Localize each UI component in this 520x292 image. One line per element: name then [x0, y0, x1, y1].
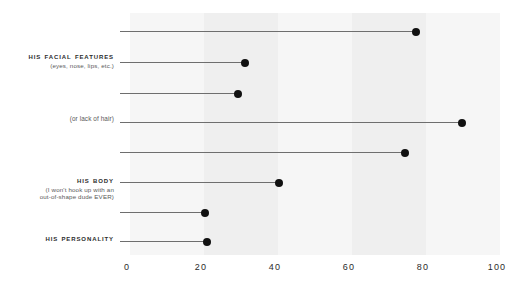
row-label: His Facial Features(eyes, nose, lips, et… [0, 51, 114, 69]
lollipop-dot[interactable] [203, 238, 211, 246]
row-title: His Personality [0, 233, 114, 244]
x-axis-tick-label: 0 [107, 262, 147, 272]
row-inline-note: (or lack of hair) [70, 115, 114, 122]
x-axis-tick-label: 80 [403, 262, 443, 272]
row-subtitle: (eyes, nose, lips, etc.) [0, 62, 114, 69]
x-axis-tick-label: 40 [255, 262, 295, 272]
x-axis-tick-label: 100 [477, 262, 517, 272]
x-axis: 020406080100 [0, 262, 520, 282]
row-label: (or lack of hair) [0, 113, 114, 124]
x-axis-tick-label: 60 [329, 262, 369, 272]
lollipop-connector-line [120, 182, 279, 183]
lollipop-connector-line [120, 212, 205, 213]
x-axis-tick-label: 20 [181, 262, 221, 272]
lollipop-dot[interactable] [401, 149, 409, 157]
lollipop-dot[interactable] [234, 90, 242, 98]
lollipop-chart: His Facial Features(eyes, nose, lips, et… [0, 0, 520, 292]
lollipop-connector-line [120, 93, 238, 94]
lollipop-connector-line [120, 241, 207, 242]
lollipop-dot[interactable] [412, 28, 420, 36]
row-subtitle-line2: out-of-shape dude EVER) [0, 193, 114, 200]
row-title: His Facial Features [0, 51, 114, 62]
lollipop-dot[interactable] [275, 179, 283, 187]
lollipop-connector-line [120, 62, 245, 63]
row-title: His Body [0, 175, 114, 186]
lollipop-dot[interactable] [458, 119, 466, 127]
lollipop-dot[interactable] [201, 209, 209, 217]
row-label: His Personality [0, 233, 114, 244]
row-title: (or lack of hair) [0, 113, 114, 124]
chart-rows: His Facial Features(eyes, nose, lips, et… [0, 0, 520, 292]
lollipop-connector-line [120, 152, 405, 153]
lollipop-connector-line [120, 31, 416, 32]
row-label: His Body(I won't hook up with anout-of-s… [0, 175, 114, 201]
row-subtitle: (I won't hook up with an [0, 186, 114, 193]
lollipop-connector-line [120, 122, 462, 123]
lollipop-dot[interactable] [241, 59, 249, 67]
